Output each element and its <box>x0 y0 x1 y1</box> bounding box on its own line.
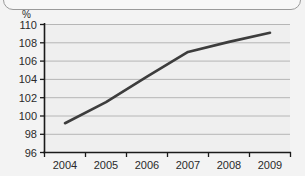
line-chart: % 110 108 106 104 102 100 98 96 2004 200… <box>0 0 305 176</box>
y-tick-label-98: 98 <box>25 128 37 140</box>
y-tick-label-106: 106 <box>19 55 37 67</box>
chart-svg: % 110 108 106 104 102 100 98 96 2004 200… <box>0 0 305 176</box>
y-tick-label-100: 100 <box>19 110 37 122</box>
x-tick-label-2008: 2008 <box>217 159 241 171</box>
x-tick-label-2006: 2006 <box>135 159 159 171</box>
x-tick-label-2004: 2004 <box>53 159 77 171</box>
x-tick-label-2007: 2007 <box>176 159 200 171</box>
y-tick-label-104: 104 <box>19 73 37 85</box>
y-tick-label-110: 110 <box>19 19 37 31</box>
y-ticks <box>40 25 44 153</box>
x-tick-label-2005: 2005 <box>94 159 118 171</box>
screenshot-root: % 110 108 106 104 102 100 98 96 2004 200… <box>0 0 305 176</box>
y-tick-label-96: 96 <box>25 147 37 159</box>
y-tick-label-102: 102 <box>19 92 37 104</box>
x-tick-label-2009: 2009 <box>258 159 282 171</box>
y-tick-label-108: 108 <box>19 37 37 49</box>
